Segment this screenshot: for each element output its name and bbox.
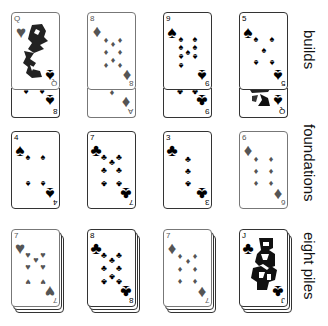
diamond-icon: ♦ xyxy=(178,277,183,286)
diamond-icon: ♦ xyxy=(111,40,116,49)
spade-icon: ♠ xyxy=(193,52,198,61)
build-card-queen-hearts[interactable]: Q ♥ ♠ Q xyxy=(11,12,60,90)
club-icon: ♣ xyxy=(116,264,122,273)
club-icon: ♣ xyxy=(109,272,115,281)
heart-icon: ♥ xyxy=(40,251,45,260)
card-rank: 8 xyxy=(53,107,57,115)
spade-icon: ♠ xyxy=(15,142,24,159)
diamond-icon: ♦ xyxy=(269,167,274,176)
diamond-icon: ♦ xyxy=(193,277,198,286)
heart-icon: ♥ xyxy=(15,240,25,257)
club-icon: ♣ xyxy=(166,142,177,159)
card-rank: J xyxy=(281,296,285,304)
queen-face-icon xyxy=(248,88,272,108)
club-icon: ♣ xyxy=(101,153,107,162)
pile-card-jack-clubs[interactable]: J ♣ ♣ J xyxy=(239,229,288,307)
build-card-9-spades[interactable]: 9 ♠ ♠ ♠ ♠ ♠ ♠ ♠ ♠ ♠ ♠ 9 xyxy=(163,12,212,90)
card-rank: 9 xyxy=(205,79,209,87)
pile-card-7-hearts[interactable]: 7 ♥ ♥ ♥ ♥ ♥ ♥ ♥ ♥ ♥ 7 xyxy=(11,229,60,307)
club-icon: ♣ xyxy=(109,256,115,265)
spade-icon: ♠ xyxy=(26,179,31,188)
club-icon: ♣ xyxy=(109,158,115,167)
diamond-icon: ♦ xyxy=(104,61,109,70)
club-icon: ♣ xyxy=(90,142,101,159)
build-under-card-8-spades[interactable]: ♠ ♠ ♠ 8 xyxy=(11,88,60,118)
club-icon: ♣ xyxy=(101,277,107,286)
club-icon: ♣ xyxy=(90,240,101,257)
club-icon: ♣ xyxy=(116,153,122,162)
diamond-icon: ♦ xyxy=(193,252,198,261)
heart-icon: ♥ xyxy=(25,263,30,272)
build-card-5-spades[interactable]: 5 ♠ ♠ ♠ ♠ ♠ ♠ ♠ 5 xyxy=(239,12,288,90)
spade-icon: ♠ xyxy=(254,58,259,67)
diamond-icon: ♦ xyxy=(118,48,123,57)
club-icon: ♣ xyxy=(101,264,107,273)
card-rank: 7 xyxy=(129,198,133,206)
card-rank: 7 xyxy=(205,296,209,304)
row-label-builds: builds xyxy=(301,30,318,69)
heart-icon: ♥ xyxy=(33,256,38,265)
foundation-card-3-clubs[interactable]: 3 ♣ ♣ ♣ ♣ ♣ 3 xyxy=(163,131,212,209)
card-rank: A xyxy=(128,107,133,115)
diamond-icon: ♦ xyxy=(244,142,253,159)
spade-icon: ♠ xyxy=(26,153,31,162)
build-card-8-diamonds[interactable]: 8 ♦ ♦ ♦ ♦ ♦ ♦ ♦ ♦ ♦ ♦ 8 xyxy=(87,12,136,90)
pile-card-8-clubs[interactable]: 8 ♣ ♣ ♣ ♣ ♣ ♣ ♣ ♣ ♣ ♣ 8 xyxy=(87,229,136,307)
spade-icon: ♠ xyxy=(41,153,46,162)
build-under-card-ace-diamonds[interactable]: ♦ ♦ A xyxy=(87,88,136,118)
club-icon: ♣ xyxy=(101,166,107,175)
spade-icon: ♠ xyxy=(179,61,184,70)
club-icon: ♣ xyxy=(185,167,191,176)
diamond-icon: ♦ xyxy=(254,179,259,188)
card-rank: 7 xyxy=(53,296,57,304)
card-rank: Q xyxy=(279,107,285,115)
diamond-icon: ♦ xyxy=(178,265,183,274)
diamond-icon: ♦ xyxy=(111,56,116,65)
card-rank: 3 xyxy=(205,198,209,206)
club-icon: ♣ xyxy=(101,251,107,260)
diamond-icon: ♦ xyxy=(104,48,109,57)
spade-icon: ♠ xyxy=(167,24,176,41)
diamond-icon: ♦ xyxy=(118,61,123,70)
spade-icon: ♠ xyxy=(186,48,191,57)
card-rank: 4 xyxy=(53,198,57,206)
diamond-icon: ♦ xyxy=(104,36,109,45)
row-label-foundations: foundations xyxy=(301,124,318,202)
spade-icon: ♠ xyxy=(179,43,184,52)
build-under-card-queen-spades[interactable]: ♠ Q xyxy=(239,88,288,118)
club-icon: ♣ xyxy=(116,166,122,175)
card-rank: 9 xyxy=(205,107,209,115)
pile-card-7-diamonds[interactable]: 7 ♦ ♦ ♦ ♦ ♦ ♦ ♦ ♦ ♦ 7 xyxy=(163,229,212,307)
build-under-card-9-clubs[interactable]: ♣ ♣ ♣ 9 xyxy=(163,88,212,118)
heart-icon: ♥ xyxy=(40,263,45,272)
club-icon: ♣ xyxy=(101,179,107,188)
card-rank: 6 xyxy=(281,198,285,206)
foundation-card-7-clubs[interactable]: 7 ♣ ♣ ♣ ♣ ♣ ♣ ♣ ♣ ♣ 7 xyxy=(87,131,136,209)
spade-icon: ♠ xyxy=(243,24,252,41)
foundation-card-4-spades[interactable]: 4 ♠ ♠ ♠ ♠ ♠ ♠ 4 xyxy=(11,131,60,209)
club-icon: ♣ xyxy=(196,92,207,109)
diamond-icon: ♦ xyxy=(178,252,183,261)
diamond-icon: ♦ xyxy=(168,240,177,257)
spade-icon: ♠ xyxy=(262,46,267,55)
diamond-icon: ♦ xyxy=(254,155,259,164)
diamond-icon: ♦ xyxy=(269,179,274,188)
spade-icon: ♠ xyxy=(193,43,198,52)
spade-icon: ♠ xyxy=(179,52,184,61)
diamond-icon: ♦ xyxy=(118,36,123,45)
club-icon: ♣ xyxy=(185,179,191,188)
row-label-eight-piles: eight piles xyxy=(301,232,318,300)
spade-icon: ♠ xyxy=(254,35,259,44)
spade-icon: ♠ xyxy=(270,35,275,44)
foundation-card-6-diamonds[interactable]: 6 ♦ ♦ ♦ ♦ ♦ ♦ ♦ ♦ 6 xyxy=(239,131,288,209)
card-rank: 8 xyxy=(129,79,133,87)
heart-icon: ♥ xyxy=(25,251,30,260)
diamond-icon: ♦ xyxy=(93,23,102,40)
diamond-icon: ♦ xyxy=(254,167,259,176)
heart-icon: ♥ xyxy=(25,277,30,286)
card-rank: 5 xyxy=(281,79,285,87)
card-rank: 8 xyxy=(129,296,133,304)
card-rank: Q xyxy=(51,79,57,87)
diamond-icon: ♦ xyxy=(186,257,191,266)
diamond-icon: ♦ xyxy=(193,265,198,274)
